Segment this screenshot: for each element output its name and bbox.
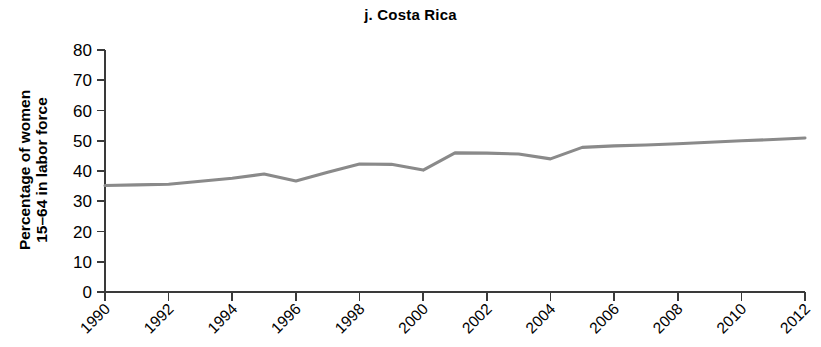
x-tick-label: 2008 [649,300,685,336]
x-tick-label: 2012 [777,300,813,336]
y-tick-label: 20 [73,223,92,242]
y-tick-label: 30 [73,192,92,211]
x-tick-label: 1990 [77,300,114,337]
x-tick-label: 2010 [713,300,750,337]
y-tick-label: 50 [73,132,92,151]
y-tick-label: 80 [73,41,92,60]
x-tick-label: 1994 [204,300,241,337]
x-tick-label: 1992 [140,300,176,336]
x-tick-label-group: 1990199219941996199820002002200420062008… [77,300,813,337]
y-tick-label: 70 [73,71,92,90]
y-tick-label: 40 [73,162,92,181]
x-tick-label: 1996 [268,300,304,336]
data-series-line [105,138,805,185]
y-tick-label-group: 01020304050607080 [73,41,92,302]
y-tick-mark-group [97,50,105,292]
x-tick-label: 2002 [459,300,495,336]
plot-area: 01020304050607080 1990199219941996199820… [0,0,821,347]
x-tick-label: 2000 [395,300,432,337]
x-tick-label: 2004 [522,300,559,337]
chart-figure: j. Costa Rica Percentage of women 15–64 … [0,0,821,347]
y-tick-label: 10 [73,253,92,272]
x-tick-label: 2006 [586,300,622,336]
y-tick-label: 60 [73,102,92,121]
x-tick-mark-group [105,292,805,301]
x-tick-label: 1998 [331,300,367,336]
y-tick-label: 0 [83,283,92,302]
